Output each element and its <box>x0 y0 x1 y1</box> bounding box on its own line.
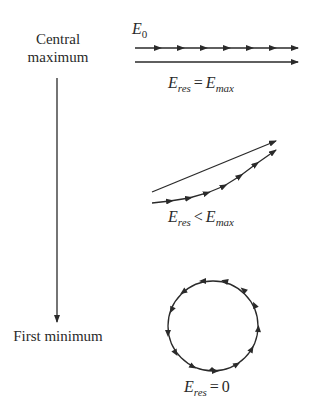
eq1-rhs-sub: max <box>216 82 234 94</box>
central-maximum-label-line2: maximum <box>18 48 98 66</box>
e0-symbol: E <box>132 20 142 37</box>
eq3-operator: = <box>210 378 219 395</box>
equation-first-minimum: Eres=0 <box>184 378 230 398</box>
phasor-chain-arc <box>152 150 276 203</box>
eq2-lhs-sub: res <box>178 216 191 228</box>
eq3-lhs-sub: res <box>194 386 207 398</box>
eq2-rhs-sub: max <box>216 216 234 228</box>
eq1-rhs: E <box>206 74 216 91</box>
eq3-lhs: E <box>184 378 194 395</box>
central-maximum-label: Central maximum <box>18 30 98 66</box>
eq2-lhs: E <box>168 208 178 225</box>
eq1-lhs: E <box>168 74 178 91</box>
eq2-operator: < <box>194 208 203 225</box>
eq3-rhs: 0 <box>222 378 230 395</box>
central-maximum-label-line1: Central <box>18 30 98 48</box>
phasor-chain-circle <box>165 277 262 374</box>
equation-central-maximum: Eres=Emax <box>168 74 234 94</box>
e0-subscript: 0 <box>142 28 148 40</box>
phasor-e0-label: E0 <box>132 20 147 40</box>
eq1-operator: = <box>194 74 203 91</box>
equation-intermediate: Eres<Emax <box>168 208 234 228</box>
eq2-rhs: E <box>206 208 216 225</box>
eq1-lhs-sub: res <box>178 82 191 94</box>
resultant-arrow-intermediate <box>152 141 276 192</box>
first-minimum-label: First minimum <box>2 327 114 345</box>
